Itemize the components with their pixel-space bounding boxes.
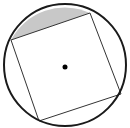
shaded-circular-segment [11, 8, 90, 40]
circle-square-diagram [0, 0, 130, 128]
diagram-canvas [0, 0, 130, 128]
center-point [63, 65, 68, 70]
